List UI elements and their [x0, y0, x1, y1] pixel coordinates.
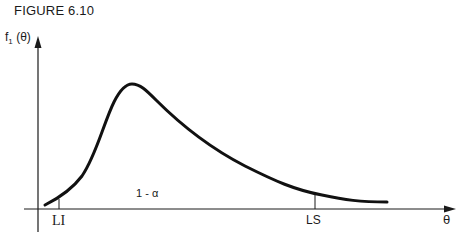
- x-axis-label: θ: [443, 212, 450, 227]
- upper-limit-label: LS: [306, 213, 321, 227]
- y-axis-arrow-icon: [35, 36, 42, 48]
- lower-limit-label: LI: [52, 213, 65, 229]
- area-label: 1 - α: [136, 187, 158, 199]
- density-curve: [45, 84, 387, 205]
- density-plot: [0, 0, 462, 244]
